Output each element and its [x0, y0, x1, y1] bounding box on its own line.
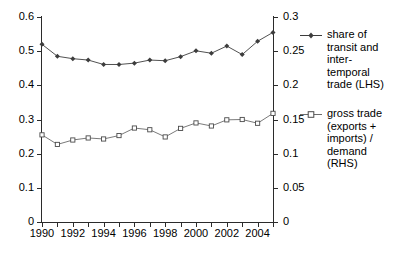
data-point — [224, 44, 229, 49]
right-axis-tick — [274, 222, 278, 223]
x-axis-minor-tick — [196, 223, 197, 227]
x-axis-minor-tick — [165, 223, 166, 227]
data-point — [86, 58, 91, 63]
data-point — [117, 133, 121, 137]
x-axis-minor-tick — [227, 223, 228, 227]
left-axis-tick-label: 0.3 — [19, 114, 34, 125]
left-axis-tick-label: 0.1 — [19, 182, 34, 193]
data-point — [271, 111, 275, 115]
data-point — [179, 126, 183, 130]
data-point — [86, 136, 90, 140]
x-axis-minor-tick — [73, 223, 74, 227]
left-axis-tick-label: 0.5 — [19, 45, 34, 56]
x-axis-minor-tick — [242, 223, 243, 227]
right-axis-tick — [274, 17, 278, 18]
data-point — [209, 124, 213, 128]
data-point — [40, 133, 44, 137]
data-point — [240, 117, 244, 121]
right-axis-tick-label: 0.3 — [283, 11, 298, 22]
data-point — [55, 142, 59, 146]
x-axis-minor-tick — [211, 223, 212, 227]
x-axis-minor-tick — [119, 223, 120, 227]
data-point — [256, 121, 260, 125]
x-axis-minor-tick — [150, 223, 151, 227]
x-axis-minor-tick — [104, 223, 105, 227]
data-point — [70, 56, 75, 61]
data-point — [209, 51, 214, 56]
data-point — [271, 30, 276, 35]
left-axis-tick-label: 0 — [28, 216, 34, 227]
x-axis-minor-tick — [134, 223, 135, 227]
data-point — [148, 128, 152, 132]
right-axis-tick-label: 0.1 — [283, 148, 298, 159]
right-axis-tick — [274, 85, 278, 86]
data-point — [163, 135, 167, 139]
plot-area: 0.60.50.40.30.20.10 0.30.250.20.150.10.0… — [41, 16, 274, 223]
series-line-1 — [42, 113, 273, 144]
left-axis-tick-label: 0.4 — [19, 79, 34, 90]
x-axis-minor-tick — [181, 223, 182, 227]
chart-legend: share of transit and inter- temporal tra… — [300, 28, 399, 184]
data-point — [71, 138, 75, 142]
x-axis-minor-tick — [42, 223, 43, 227]
left-axis-tick-label: 0.6 — [19, 11, 34, 22]
right-axis-tick — [274, 120, 278, 121]
data-point — [147, 58, 152, 63]
x-axis-minor-tick — [57, 223, 58, 227]
legend-entry-share-of-transit[interactable]: share of transit and inter- temporal tra… — [300, 28, 399, 91]
right-axis-tick — [274, 51, 278, 52]
data-point — [132, 61, 137, 66]
data-point — [163, 58, 168, 63]
right-axis-tick — [274, 188, 278, 189]
legend-entry-gross-trade[interactable]: gross trade (exports + imports) / demand… — [300, 107, 399, 170]
data-point — [102, 137, 106, 141]
data-point — [132, 126, 136, 130]
right-axis-tick-label: 0.2 — [283, 79, 298, 90]
data-point — [194, 121, 198, 125]
diamond-line-marker — [300, 31, 322, 40]
data-point — [117, 62, 122, 67]
x-axis-minor-tick — [88, 223, 89, 227]
data-point — [225, 118, 229, 122]
right-axis-tick-label: 0 — [283, 216, 289, 227]
data-point — [101, 62, 106, 67]
right-axis-tick — [274, 154, 278, 155]
series-line-0 — [42, 32, 273, 64]
legend-label-share-of-transit: share of transit and inter- temporal tra… — [327, 28, 399, 91]
series-plot — [41, 16, 274, 223]
x-axis-tick-label: 2004 — [238, 228, 278, 239]
chart-figure: 0.60.50.40.30.20.10 0.30.250.20.150.10.0… — [0, 0, 399, 259]
open-square-line-marker — [300, 110, 322, 119]
x-axis-minor-tick — [273, 223, 274, 227]
left-axis-tick-label: 0.2 — [19, 148, 34, 159]
legend-label-gross-trade: gross trade (exports + imports) / demand… — [327, 107, 399, 170]
data-point — [178, 54, 183, 59]
x-axis-minor-tick — [258, 223, 259, 227]
data-point — [194, 48, 199, 53]
